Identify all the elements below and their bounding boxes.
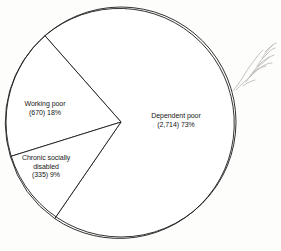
slice-label-chronic-line1: Chronic socially (8, 154, 84, 163)
slice-label-dependent-poor-line1: Dependent poor (142, 112, 210, 121)
pie-chart-figure: Dependent poor (2,714) 73% Working poor … (0, 0, 281, 251)
slice-label-working-poor-line2: (670) 18% (10, 109, 80, 118)
slice-label-chronic-line3: (335) 9% (8, 171, 84, 180)
slice-label-working-poor-line1: Working poor (10, 100, 80, 109)
slice-label-working-poor: Working poor (670) 18% (10, 100, 80, 117)
slice-label-chronic-line2: disabled (8, 163, 84, 172)
pie-chart-canvas (0, 0, 281, 251)
slice-label-dependent-poor-line2: (2,714) 73% (142, 121, 210, 130)
slice-label-dependent-poor: Dependent poor (2,714) 73% (142, 112, 210, 129)
slice-label-chronic-socially-disabled: Chronic socially disabled (335) 9% (8, 154, 84, 180)
